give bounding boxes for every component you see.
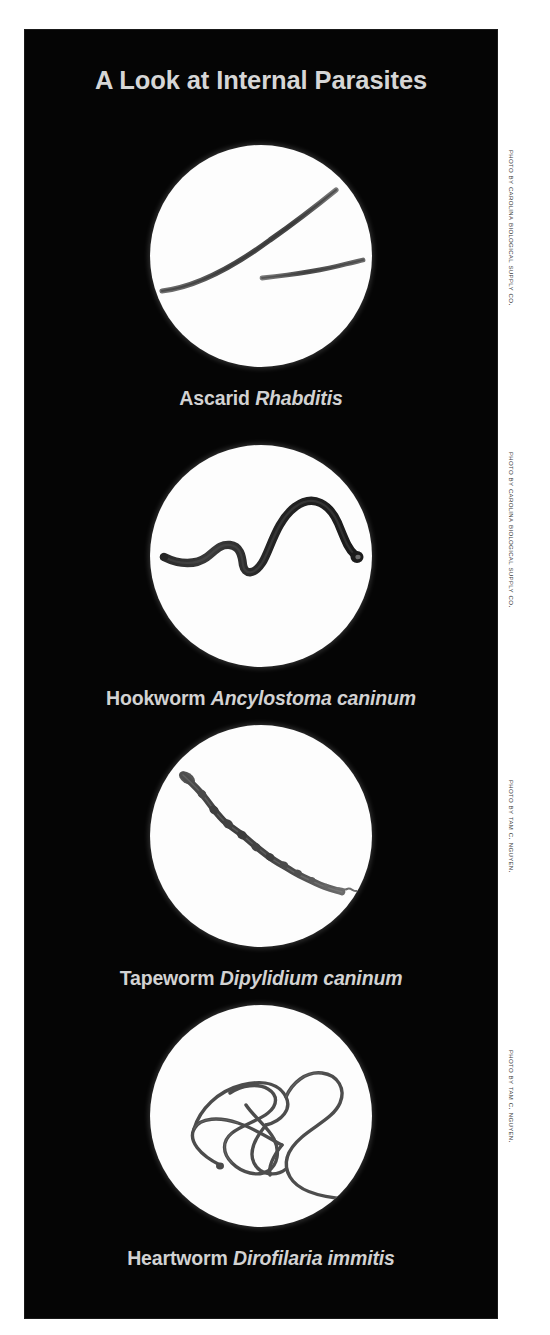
photo-frame-hookworm: [25, 445, 497, 671]
microscope-field-hookworm: [150, 445, 372, 667]
page-title: A Look at Internal Parasites: [25, 66, 497, 95]
specimen-heartworm: Heartworm Dirofilaria immitis: [25, 1005, 497, 1270]
specimen-tapeworm: Tapeworm Dipylidium caninum: [25, 725, 497, 990]
photo-credit-ascarid: Photo by Carolina Biological Supply Co.: [507, 150, 516, 306]
photo-credit-hookworm: Photo by Carolina Biological Supply Co.: [507, 452, 516, 608]
caption-heartworm: Heartworm Dirofilaria immitis: [25, 1231, 497, 1270]
microscope-field-heartworm: [150, 1005, 372, 1227]
specimen-hookworm: Hookworm Ancylostoma caninum: [25, 445, 497, 710]
photo-frame-heartworm: [25, 1005, 497, 1231]
poster-panel: A Look at Internal Parasites: [25, 30, 497, 1318]
photo-credit-heartworm: Photo by Tam C. Nguyen.: [507, 1050, 516, 1143]
caption-ascarid: Ascarid Rhabditis: [25, 371, 497, 410]
specimen-ascarid: Ascarid Rhabditis: [25, 145, 497, 410]
poster-page: A Look at Internal Parasites: [0, 0, 550, 1335]
photo-credit-tapeworm: Photo by Tam C. Nguyen.: [507, 780, 516, 873]
common-name-heartworm: Heartworm: [127, 1247, 228, 1269]
common-name-hookworm: Hookworm: [106, 687, 206, 709]
scientific-name-hookworm: Ancylostoma caninum: [211, 687, 416, 709]
photo-frame-tapeworm: [25, 725, 497, 951]
microscope-field-tapeworm: [150, 725, 372, 947]
photo-frame-ascarid: [25, 145, 497, 371]
common-name-ascarid: Ascarid: [179, 387, 250, 409]
common-name-tapeworm: Tapeworm: [120, 967, 215, 989]
scientific-name-ascarid: Rhabditis: [255, 387, 343, 409]
caption-tapeworm: Tapeworm Dipylidium caninum: [25, 951, 497, 990]
scientific-name-tapeworm: Dipylidium caninum: [220, 967, 403, 989]
microscope-field-ascarid: [150, 145, 372, 367]
scientific-name-heartworm: Dirofilaria immitis: [233, 1247, 395, 1269]
caption-hookworm: Hookworm Ancylostoma caninum: [25, 671, 497, 710]
right-margin-rule: [547, 0, 548, 1335]
